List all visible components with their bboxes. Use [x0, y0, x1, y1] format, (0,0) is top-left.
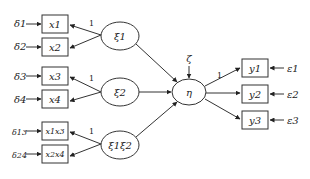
- eta-label: η: [186, 87, 192, 98]
- loading-1-xi12: 1: [89, 127, 94, 136]
- epsilon-1-label: ε1: [287, 63, 299, 74]
- arrow-xi1-x2: [70, 35, 101, 48]
- arrow-xi12-x2x4: [70, 144, 101, 156]
- arrow-xi2-x3: [70, 77, 101, 92]
- arrow-xi1xi2-eta: [136, 102, 177, 137]
- delta-3-label: δ3: [14, 71, 26, 82]
- x-errors: δ1 δ2 δ3 δ4 δ13 δ24: [12, 18, 41, 160]
- xi2-label: ξ2: [114, 87, 126, 98]
- arrow-xi2-x4: [70, 92, 101, 101]
- x2-label: x2: [49, 42, 61, 53]
- sem-diagram: δ1 δ2 δ3 δ4 δ13 δ24 x1 x2 x3 x4 x1x3 x2x…: [0, 0, 310, 179]
- xi1-label: ξ1: [114, 31, 126, 42]
- x4-label: x4: [49, 94, 61, 105]
- delta-24-label: δ24: [12, 151, 27, 160]
- arrow-xi1-eta: [136, 44, 177, 82]
- loading-1-xi2: 1: [89, 74, 94, 83]
- delta-2-label: δ2: [14, 41, 26, 52]
- x1x3-label: x1x3: [45, 127, 64, 136]
- xi1xi2-label: ξ1ξ2: [108, 140, 132, 151]
- epsilon-3-label: ε3: [287, 115, 299, 126]
- loading-1-eta: 1: [217, 71, 222, 80]
- loading-1-xi1: 1: [89, 19, 94, 28]
- y3-label: y3: [248, 115, 261, 126]
- delta-4-label: δ4: [14, 94, 26, 105]
- y1-label: y1: [248, 63, 261, 74]
- y-errors: ε1 ε2 ε3: [270, 63, 299, 126]
- delta-13-label: δ13: [12, 128, 27, 137]
- x-loadings: 1 1 1: [70, 19, 101, 156]
- zeta-label: ζ: [186, 53, 192, 64]
- x2x4-label: x2x4: [45, 150, 64, 159]
- arrow-xi1-x1: [70, 25, 101, 35]
- y-indicators: y1 y2 y3: [242, 59, 268, 129]
- x1-label: x1: [49, 19, 61, 30]
- epsilon-2-label: ε2: [287, 89, 299, 100]
- x3-label: x3: [49, 71, 61, 82]
- y2-label: y2: [248, 89, 261, 100]
- arrow-xi12-x1x3: [70, 132, 101, 144]
- arrow-eta-y1: [205, 68, 240, 86]
- x-indicators: x1 x2 x3 x4 x1x3 x2x4: [42, 15, 68, 163]
- arrow-eta-y3: [205, 99, 240, 119]
- delta-1-label: δ1: [14, 18, 26, 29]
- latent-exogenous: ξ1 ξ2 ξ1ξ2: [101, 22, 139, 159]
- y-loadings: 1: [205, 68, 240, 119]
